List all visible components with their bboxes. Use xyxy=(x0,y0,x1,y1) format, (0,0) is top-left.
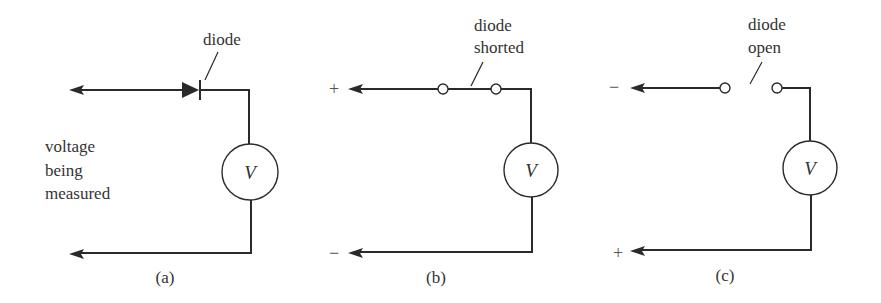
leader-line xyxy=(205,52,218,80)
top-sign: − xyxy=(609,77,619,97)
diode-test-figure: V diode voltage being measured (a) + V − xyxy=(0,0,881,303)
bottom-sign: − xyxy=(329,243,339,263)
diode-shorted-label: diode shorted xyxy=(474,16,525,57)
caption-c: (c) xyxy=(716,266,735,285)
voltmeter: V xyxy=(783,141,837,195)
terminal-icon xyxy=(438,84,448,94)
caption-a: (a) xyxy=(156,268,175,287)
leader-line xyxy=(471,62,483,86)
diode-label: diode xyxy=(203,30,241,49)
caption-b: (b) xyxy=(426,268,446,287)
top-sign: + xyxy=(329,79,339,99)
panel-a: V diode voltage being measured (a) xyxy=(45,30,278,287)
terminal-icon xyxy=(772,83,782,93)
terminal-icon xyxy=(491,84,501,94)
leader-line xyxy=(750,62,762,84)
voltmeter: V xyxy=(222,144,278,200)
diode-icon xyxy=(182,80,200,100)
voltmeter: V xyxy=(504,143,558,197)
panel-b: + V − diode shorted (b) xyxy=(329,16,558,287)
panel-c: − V + diode open (c) xyxy=(609,15,837,285)
terminal-icon xyxy=(720,83,730,93)
voltage-being-measured-label: voltage being measured xyxy=(45,137,111,203)
bottom-sign: + xyxy=(613,243,623,263)
diode-open-label: diode open xyxy=(748,15,790,57)
